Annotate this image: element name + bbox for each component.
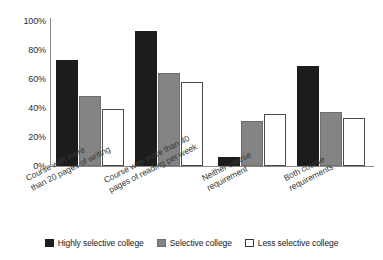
legend-swatch-white — [245, 239, 254, 247]
bar — [102, 109, 124, 166]
bar — [343, 118, 365, 166]
bar-group — [218, 21, 286, 166]
y-axis-tick-label: 20% — [4, 132, 46, 142]
legend-label: Less selective college — [258, 238, 338, 248]
legend-label: Highly selective college — [58, 238, 144, 248]
y-axis-tick-label: 40% — [4, 103, 46, 113]
legend-swatch-black — [45, 239, 54, 247]
bar — [135, 31, 157, 166]
y-axis-tick-label: 60% — [4, 74, 46, 84]
y-axis-tick-label: 80% — [4, 45, 46, 55]
chart-legend: Highly selective collegeSelective colleg… — [0, 238, 383, 248]
bar — [297, 66, 319, 166]
y-axis-tick-labels: 0%20%40%60%80%100% — [0, 0, 46, 260]
bar-chart: 0%20%40%60%80%100% Course with morethan … — [0, 0, 383, 260]
legend-swatch-gray — [157, 239, 166, 247]
bar-group — [297, 21, 365, 166]
legend-label: Selective college — [170, 238, 232, 248]
bar — [264, 114, 286, 166]
legend-item[interactable]: Less selective college — [245, 238, 338, 248]
y-axis-tick-label: 100% — [4, 16, 46, 26]
legend-item[interactable]: Highly selective college — [45, 238, 144, 248]
legend-item[interactable]: Selective college — [157, 238, 232, 248]
